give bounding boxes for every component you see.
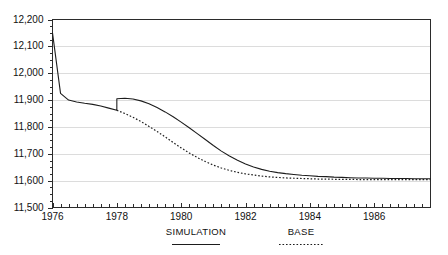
y-axis-tick-label: 11,700 (14, 148, 44, 159)
series-layer (53, 33, 431, 180)
x-axis-tick-label: 1980 (170, 211, 193, 222)
x-minor-ticks (54, 203, 423, 208)
y-axis-tick-label: 11,900 (14, 94, 44, 105)
x-axis-tick-label: 1984 (299, 211, 322, 222)
chart-container: 11,50011,60011,70011,80011,90012,00012,1… (0, 0, 448, 255)
y-axis-tick-label: 12,100 (13, 40, 44, 51)
y-axis-tick-label: 11,800 (14, 121, 44, 132)
y-axis-tick-label: 11,500 (14, 202, 44, 213)
x-axis-tick-label: 1976 (41, 211, 64, 222)
line-chart: 11,50011,60011,70011,80011,90012,00012,1… (0, 0, 448, 255)
legend-label-simulation: SIMULATION (166, 226, 226, 237)
y-axis-tick-labels: 11,50011,60011,70011,80011,90012,00012,1… (13, 14, 44, 213)
y-axis-tick-label: 12,000 (13, 67, 44, 78)
y-axis-tick-label: 12,200 (13, 14, 44, 25)
x-axis-tick-label: 1982 (234, 211, 257, 222)
chart-legend: SIMULATIONBASE (166, 226, 323, 245)
series-line-base (117, 110, 431, 179)
series-line-simulation (53, 33, 431, 179)
gridlines (53, 47, 431, 182)
x-axis-tick-label: 1978 (106, 211, 129, 222)
y-minor-ticks (48, 21, 53, 209)
legend-label-base: BASE (288, 226, 315, 237)
y-axis-tick-label: 11,600 (14, 175, 44, 186)
x-axis-tick-label: 1986 (363, 211, 386, 222)
x-axis-tick-labels: 197619781980198219841986 (41, 211, 385, 222)
